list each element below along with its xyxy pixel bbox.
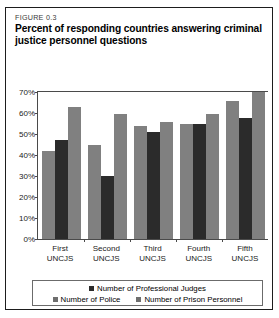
x-axis-category-label-line: UNCJS: [37, 254, 83, 264]
x-axis-category-label-line: Third: [129, 244, 175, 254]
x-axis-category-label: SecondUNCJS: [83, 244, 129, 264]
bar: [42, 151, 55, 239]
legend-label: Number of Police: [61, 295, 121, 304]
y-axis-tick-label: 10%: [19, 214, 35, 223]
legend-entry: Number of Prison Personnel: [136, 295, 242, 304]
y-axis-tick-label: 30%: [19, 172, 35, 181]
legend-swatch-icon: [89, 286, 94, 291]
legend-label: Number of Prison Personnel: [144, 295, 242, 304]
x-axis-category-labels: FirstUNCJSSecondUNCJSThirdUNCJSFourthUNC…: [37, 244, 268, 264]
x-axis-category-label-line: UNCJS: [222, 254, 268, 264]
y-axis-tick-mark: [35, 239, 38, 240]
bar: [160, 122, 173, 239]
bar: [147, 132, 160, 239]
x-axis-category-label-line: Second: [83, 244, 129, 254]
bar-group: [130, 92, 176, 239]
bar: [226, 101, 239, 239]
x-axis-tick-mark: [84, 239, 85, 242]
y-axis-tick-label: 50%: [19, 130, 35, 139]
legend-swatch-icon: [53, 297, 58, 302]
chart-legend: Number of Professional Judges Number of …: [32, 280, 263, 306]
bar: [134, 126, 147, 239]
bar: [114, 114, 127, 239]
bar: [239, 118, 252, 239]
x-axis-category-label-line: First: [37, 244, 83, 254]
figure-card: FIGURE 0.3 Percent of responding countri…: [5, 7, 273, 310]
x-axis-category-label-line: UNCJS: [129, 254, 175, 264]
y-axis-tick-label: 40%: [19, 151, 35, 160]
x-axis-category-label-line: Fifth: [222, 244, 268, 254]
bar-group: [222, 92, 268, 239]
legend-label: Number of Professional Judges: [97, 284, 206, 293]
bar-groups: [38, 92, 268, 239]
bar: [252, 92, 265, 239]
x-axis-tick-mark: [222, 239, 223, 242]
y-axis-tick-label: 20%: [19, 193, 35, 202]
figure-title: Percent of responding countries answerin…: [15, 23, 265, 46]
bar: [101, 176, 114, 239]
x-axis-category-label-line: UNCJS: [83, 254, 129, 264]
y-axis-tick-label: 60%: [19, 109, 35, 118]
bar-group: [84, 92, 130, 239]
y-axis-tick-label: 0%: [23, 235, 35, 244]
bar-group: [38, 92, 84, 239]
x-axis-category-label: FourthUNCJS: [176, 244, 222, 264]
legend-row-2: Number of PoliceNumber of Prison Personn…: [33, 294, 262, 305]
bar: [68, 107, 81, 239]
x-axis-tick-mark: [130, 239, 131, 242]
y-axis-tick-label: 70%: [19, 88, 35, 97]
x-axis-category-label: FifthUNCJS: [222, 244, 268, 264]
x-axis-category-label-line: UNCJS: [176, 254, 222, 264]
x-axis-category-label-line: Fourth: [176, 244, 222, 254]
x-axis-tick-mark: [176, 239, 177, 242]
x-axis-category-label: ThirdUNCJS: [129, 244, 175, 264]
figure-number: FIGURE 0.3: [15, 13, 57, 22]
bar: [206, 114, 219, 239]
legend-entry: Number of Police: [53, 295, 121, 304]
legend-entry: Number of Professional Judges: [89, 284, 206, 293]
bar: [55, 140, 68, 239]
legend-row-1: Number of Professional Judges: [33, 283, 262, 294]
bar: [88, 145, 101, 240]
bar: [193, 124, 206, 240]
x-axis-category-label: FirstUNCJS: [37, 244, 83, 264]
chart-plot-area: 70%60%50%40%30%20%10%0%: [37, 91, 268, 240]
bar-group: [176, 92, 222, 239]
legend-swatch-icon: [136, 297, 141, 302]
bar: [180, 124, 193, 240]
